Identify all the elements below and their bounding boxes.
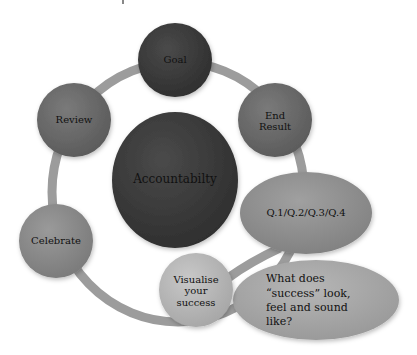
visualise-label: Visualise your success [161,272,231,310]
quarters-label: Q.1/Q.2/Q.3/Q.4 [250,205,362,221]
end-result-text: End Result [259,110,291,133]
accountability-label: Accountabilty [112,170,238,190]
celebrate-label: Celebrate [21,233,91,249]
end-result-label: End Result [240,108,310,134]
success-question-label: What does “success” look, feel and sound… [266,280,366,322]
goal-label: Goal [140,52,210,68]
review-label: Review [39,112,109,128]
visualise-text: Visualise your success [173,274,218,309]
